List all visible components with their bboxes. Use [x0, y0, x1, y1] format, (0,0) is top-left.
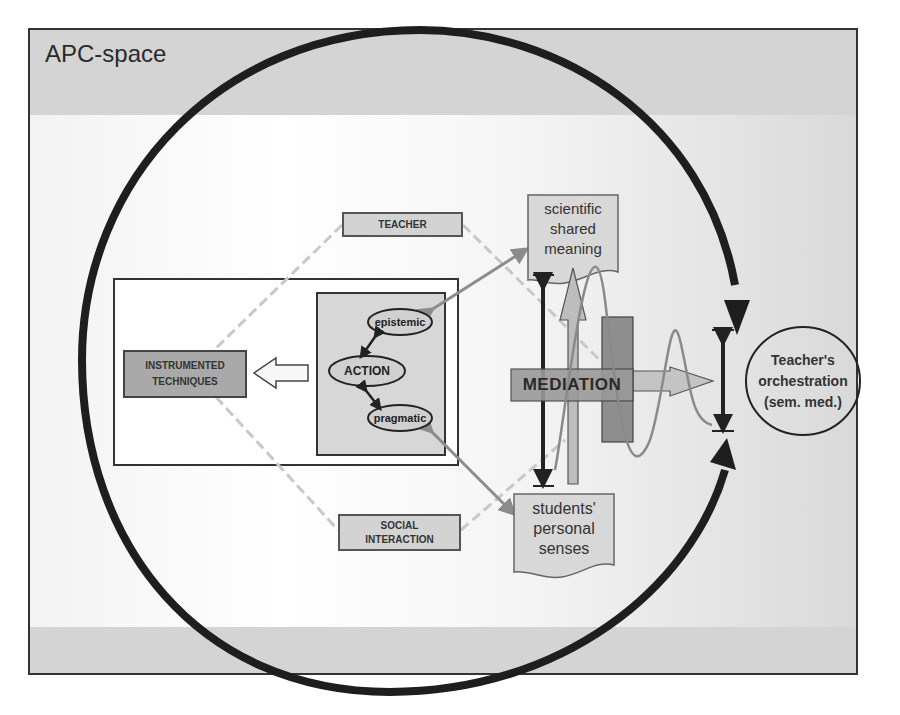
social-label-line2: INTERACTION	[365, 533, 433, 547]
social-interaction-box: SOCIAL INTERACTION	[338, 514, 461, 551]
scientific-line1: scientific	[544, 199, 602, 219]
pragmatic-label: pragmatic	[368, 410, 432, 426]
gray-arrows	[428, 252, 522, 510]
instrumented-line2: TECHNIQUES	[152, 374, 218, 390]
students-personal-senses: students' personal senses	[514, 496, 614, 562]
students-line2: personal	[533, 519, 594, 539]
students-line1: students'	[532, 499, 596, 519]
teacher-box: TEACHER	[342, 212, 463, 237]
orchestration-line1: Teacher's	[771, 350, 835, 371]
scientific-shared-meaning: scientific shared meaning	[528, 197, 618, 261]
orchestration-line2: orchestration	[758, 371, 847, 392]
scientific-line3: meaning	[544, 239, 602, 259]
mediation-label: MEDIATION	[511, 370, 633, 400]
instrumented-line1: INSTRUMENTED	[145, 358, 224, 374]
teachers-orchestration: Teacher's orchestration (sem. med.)	[746, 345, 860, 417]
teacher-label: TEACHER	[378, 218, 426, 232]
scientific-line2: shared	[550, 219, 596, 239]
mediation-arrow-head	[633, 367, 713, 396]
students-line3: senses	[539, 539, 590, 559]
action-label: ACTION	[329, 363, 405, 379]
hollow-arrow-left	[254, 358, 308, 388]
orchestration-line3: (sem. med.)	[764, 392, 842, 413]
instrumented-techniques-box: INSTRUMENTED TECHNIQUES	[123, 350, 247, 398]
social-label-line1: SOCIAL	[381, 519, 419, 533]
apc-space-diagram: APC-space	[0, 0, 900, 715]
bottom-arrowhead-icon	[710, 438, 736, 470]
epistemic-label: epistemic	[368, 314, 432, 330]
